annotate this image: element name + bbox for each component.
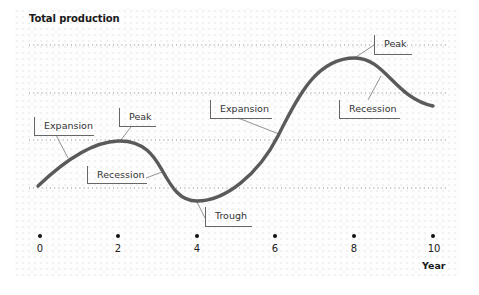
leader-peak-1 [120,127,131,141]
x-tick-8: 8 [344,243,364,254]
leader-lines [56,45,381,218]
x-tick-4: 4 [187,243,207,254]
leader-trough [196,200,205,218]
leader-peak-2 [356,45,374,57]
tick-dot-6 [273,234,277,238]
tick-dot-8 [352,234,356,238]
leader-expansion-1 [56,135,68,158]
tick-dot-2 [116,234,120,238]
tick-dot-4 [195,234,199,238]
leader-recession-1 [146,172,162,178]
label-expansion-2: Expansion [210,100,272,119]
label-expansion-1: Expansion [34,117,94,136]
label-recession-2: Recession [339,100,400,119]
x-tick-2: 2 [108,243,128,254]
tick-dot-0 [38,234,42,238]
x-axis-label: Year [422,260,446,271]
x-tick-6: 6 [265,243,285,254]
label-peak-2: Peak [374,35,412,55]
tick-dot-10 [431,234,435,238]
leader-recession-2 [368,76,381,100]
label-recession-1: Recession [87,166,147,184]
leader-expansion-2 [238,118,279,134]
x-axis-dots [38,234,435,238]
label-peak-1: Peak [119,108,156,127]
x-tick-0: 0 [30,243,50,254]
label-trough: Trough [205,207,252,227]
x-tick-10: 10 [424,243,444,254]
